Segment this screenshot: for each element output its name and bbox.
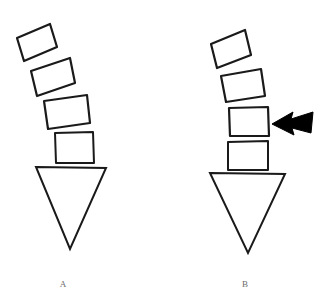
panel-a-vertebra-block-4: [55, 132, 94, 163]
panel-b-vertebra-block-3: [229, 107, 269, 136]
panel-a-vertebra-block-3: [44, 95, 90, 129]
panel-a-caption: A: [51, 279, 75, 289]
figure-root: A B: [0, 0, 323, 308]
spinal-diagram-svg: [0, 0, 323, 308]
panel-b-vertebra-block-4: [228, 141, 268, 170]
panel-b-vertebra-block-2: [221, 69, 265, 102]
panel-b-caption: B: [233, 279, 257, 289]
